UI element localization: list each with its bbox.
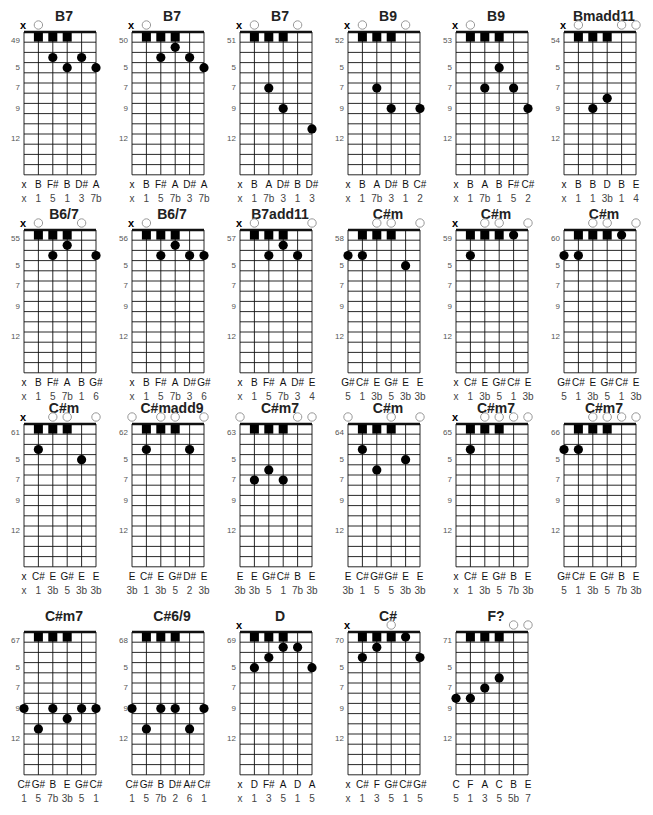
fret-label: 7 [540, 475, 560, 484]
note-label: G# [194, 377, 214, 388]
fret-label: 5 [108, 455, 128, 464]
square-marker-icon [171, 231, 180, 240]
open-string-icon [308, 413, 316, 421]
fret-label: 12 [0, 526, 20, 535]
fret-label: 9 [540, 302, 560, 311]
chord-number: 63 [216, 428, 236, 437]
fretboard-grid: x [10, 198, 118, 398]
fret-label: 7 [216, 683, 236, 692]
square-marker-icon [156, 231, 165, 240]
fret-label: 5 [108, 261, 128, 270]
open-string-icon [632, 413, 640, 421]
finger-dot-icon [63, 63, 72, 72]
fret-label: 5 [0, 63, 20, 72]
finger-dot-icon [279, 643, 288, 652]
fret-label: 7 [324, 475, 344, 484]
fretboard-grid [10, 600, 118, 800]
fretboard-grid [118, 392, 226, 592]
square-marker-icon [358, 33, 367, 42]
fret-label: 7 [108, 683, 128, 692]
fret-label: 5 [540, 455, 560, 464]
chord-number: 50 [108, 36, 128, 45]
square-marker-icon [358, 633, 367, 642]
square-marker-icon [480, 33, 489, 42]
finger-dot-icon [480, 684, 489, 693]
square-marker-icon [63, 633, 72, 642]
finger-dot-icon [495, 673, 504, 682]
fret-label: 5 [216, 663, 236, 672]
finger-dot-icon [415, 653, 424, 662]
finger-dot-icon [91, 704, 100, 713]
fret-label: 7 [0, 475, 20, 484]
degree-label: 3b [86, 585, 106, 596]
fretboard-grid: x [334, 600, 442, 800]
finger-dot-icon [466, 445, 475, 454]
fretboard-grid: x [442, 0, 550, 200]
square-marker-icon [603, 425, 612, 434]
muted-string-icon: x [20, 217, 27, 229]
square-marker-icon [387, 425, 396, 434]
chord-number: 60 [540, 234, 560, 243]
square-marker-icon [387, 231, 396, 240]
finger-dot-icon [509, 231, 518, 240]
open-string-icon [92, 413, 100, 421]
finger-dot-icon [185, 53, 194, 62]
muted-string-icon: x [236, 217, 243, 229]
fret-label: 7 [432, 281, 452, 290]
muted-string-icon: x [560, 19, 567, 31]
chord-diagram: C#m76657912G#C#EG#BE513b57b3b [550, 392, 653, 592]
fret-label: 9 [108, 496, 128, 505]
square-marker-icon [372, 33, 381, 42]
finger-dot-icon [293, 251, 302, 260]
fretboard-grid: x [442, 392, 550, 592]
finger-dot-icon [156, 251, 165, 260]
fret-label: 9 [324, 302, 344, 311]
finger-dot-icon [279, 241, 288, 250]
chord-diagram: B7x5157912xBAD#BD#x17b313 [226, 0, 334, 200]
fretboard-grid: x [10, 0, 118, 200]
fret-label: 9 [216, 302, 236, 311]
open-string-icon [509, 413, 517, 421]
finger-dot-icon [401, 261, 410, 270]
muted-string-icon: x [452, 19, 459, 31]
open-string-icon [632, 21, 640, 29]
fret-label: 9 [540, 496, 560, 505]
finger-dot-icon [372, 465, 381, 474]
open-string-icon [401, 21, 409, 29]
fret-label: 5 [0, 261, 20, 270]
fret-label: 5 [432, 261, 452, 270]
fret-label: 5 [216, 455, 236, 464]
square-marker-icon [588, 425, 597, 434]
finger-dot-icon [279, 476, 288, 485]
note-label: E [518, 571, 538, 582]
fret-label: 7 [324, 83, 344, 92]
chord-diagram: Bmadd11x5457912xBBDBEx113b14 [550, 0, 653, 200]
muted-string-icon: x [344, 19, 351, 31]
finger-dot-icon [480, 84, 489, 93]
fret-label: 7 [216, 281, 236, 290]
fretboard-grid: x [226, 0, 334, 200]
finger-dot-icon [250, 663, 259, 672]
square-marker-icon [603, 231, 612, 240]
chord-diagram: C#madd96257912EC#EG#D#E3b13b523b [118, 392, 226, 592]
open-string-icon [34, 21, 42, 29]
fret-label: 9 [216, 496, 236, 505]
muted-string-icon: x [20, 19, 27, 31]
fret-label: 7 [540, 281, 560, 290]
fret-label: 5 [0, 455, 20, 464]
fret-label: 7 [0, 83, 20, 92]
finger-dot-icon [466, 694, 475, 703]
chord-number: 55 [0, 234, 20, 243]
fret-label: 5 [432, 455, 452, 464]
finger-dot-icon [264, 653, 273, 662]
square-marker-icon [63, 33, 72, 42]
fret-label: 5 [324, 63, 344, 72]
finger-dot-icon [559, 445, 568, 454]
open-string-icon [77, 219, 85, 227]
fretboard-grid: x [550, 0, 653, 200]
fret-label: 7 [108, 281, 128, 290]
degree-label: 1 [194, 793, 214, 804]
degree-label: 5 [410, 793, 430, 804]
chord-number: 59 [432, 234, 452, 243]
square-marker-icon [264, 633, 273, 642]
